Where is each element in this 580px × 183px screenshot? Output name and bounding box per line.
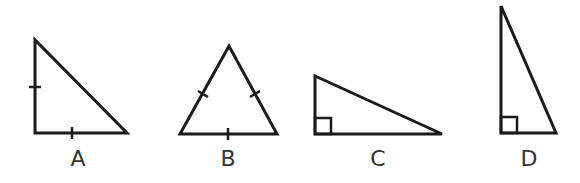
triangle-b-outline bbox=[180, 46, 277, 134]
triangle-a-outline bbox=[35, 40, 127, 133]
triangle-c-outline bbox=[315, 76, 442, 134]
triangle-c bbox=[315, 76, 442, 134]
triangle-c-label: C bbox=[358, 146, 398, 172]
triangle-a-label: A bbox=[58, 146, 98, 172]
triangle-a bbox=[29, 40, 127, 139]
triangle-d bbox=[501, 6, 556, 133]
triangle-d-label: D bbox=[509, 146, 549, 172]
triangle-b-label: B bbox=[208, 146, 248, 172]
right-angle-marker bbox=[501, 117, 517, 133]
right-angle-marker bbox=[315, 118, 331, 134]
triangle-d-outline bbox=[501, 6, 556, 133]
triangle-b bbox=[180, 46, 277, 140]
